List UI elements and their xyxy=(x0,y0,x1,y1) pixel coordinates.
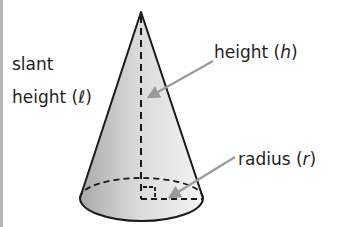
radius-label: radius (r) xyxy=(238,149,316,169)
slant-variable: ℓ xyxy=(77,87,85,107)
slant-label-line1: slant xyxy=(12,54,54,74)
slant-label-line2: height (ℓ) xyxy=(12,87,92,107)
height-variable: h xyxy=(280,42,291,62)
diagram-frame: slant height (ℓ) height (h) radius (r) xyxy=(0,0,355,227)
cone-diagram: slant height (ℓ) height (h) radius (r) xyxy=(0,0,355,227)
height-label: height (h) xyxy=(214,42,298,62)
